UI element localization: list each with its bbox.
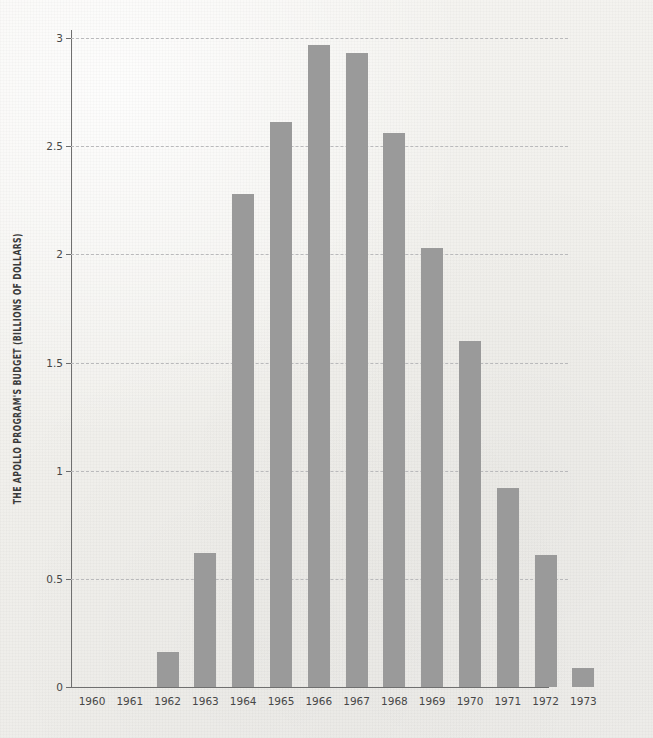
y-axis-tick-mark [66, 38, 71, 39]
y-axis-tick-label: 2 [56, 248, 63, 260]
y-axis-tick-label: 1.5 [46, 357, 63, 369]
bar-1973 [572, 668, 594, 687]
bar-chart: THE APOLLO PROGRAM'S BUDGET (BILLIONS OF… [0, 0, 653, 738]
bar-1966 [308, 45, 330, 688]
plot-area: 00.511.522.53 [71, 38, 568, 687]
x-axis-tick-label: 1969 [419, 695, 446, 707]
y-axis-tick-mark [66, 363, 71, 364]
x-axis-tick-label: 1972 [532, 695, 559, 707]
y-axis-tick-mark [66, 471, 71, 472]
y-axis-tick-label: 0 [56, 681, 63, 693]
x-axis-tick-label: 1963 [192, 695, 219, 707]
x-axis-line [71, 687, 549, 688]
x-axis-tick-label: 1964 [230, 695, 257, 707]
x-axis-tick-label: 1970 [457, 695, 484, 707]
x-axis-tick-label: 1965 [268, 695, 295, 707]
y-axis-tick-label: 2.5 [46, 140, 63, 152]
x-axis-tick-label: 1966 [305, 695, 332, 707]
y-axis-tick-label: 0.5 [46, 573, 63, 585]
y-axis-tick-label: 1 [56, 465, 63, 477]
x-axis-tick-label: 1971 [494, 695, 521, 707]
y-axis-tick-mark [66, 687, 71, 688]
bar-1965 [270, 122, 292, 687]
y-axis-title-text: THE APOLLO PROGRAM'S BUDGET (BILLIONS OF… [11, 233, 23, 504]
bar-1968 [383, 133, 405, 687]
x-axis-tick-label: 1968 [381, 695, 408, 707]
x-axis-tick-label: 1960 [79, 695, 106, 707]
x-axis-tick-label: 1962 [154, 695, 181, 707]
bar-1969 [421, 248, 443, 687]
x-axis-tick-label: 1973 [570, 695, 597, 707]
bar-1962 [157, 652, 179, 687]
bar-1964 [232, 194, 254, 687]
y-axis-tick-mark [66, 254, 71, 255]
y-axis-tick-mark [66, 579, 71, 580]
y-axis-title: THE APOLLO PROGRAM'S BUDGET (BILLIONS OF… [0, 0, 34, 738]
bar-1970 [459, 341, 481, 687]
y-axis-tick-label: 3 [56, 32, 63, 44]
bar-1967 [346, 53, 368, 687]
x-axis-tick-label: 1967 [343, 695, 370, 707]
y-axis-tick-mark [66, 146, 71, 147]
bar-1963 [194, 553, 216, 687]
x-axis-tick-label: 1961 [116, 695, 143, 707]
bar-1971 [497, 488, 519, 687]
gridline [71, 38, 568, 39]
bar-1972 [535, 555, 557, 687]
